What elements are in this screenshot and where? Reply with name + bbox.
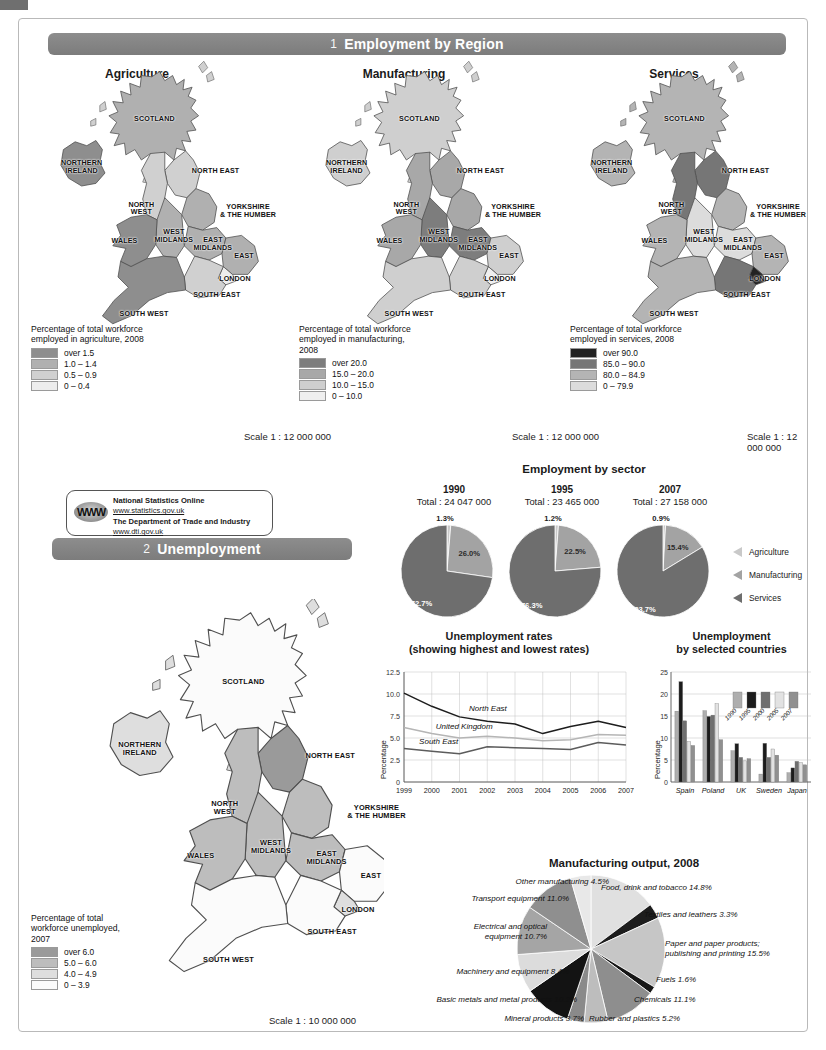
map-region-label-scotland: SCOTLAND (644, 116, 724, 124)
mfg-label-machinery: Machinery and equipment 8.4% (409, 967, 569, 977)
legend-label: 0.5 – 0.9 (64, 370, 97, 380)
chart-title-manufacturing-output: Manufacturing output, 2008 (449, 857, 799, 869)
sector-legend-item: Services (733, 593, 802, 603)
svg-text:Spain: Spain (676, 786, 694, 795)
svg-text:0.9%: 0.9% (652, 514, 670, 523)
map-region-label-scotland: SCOTLAND (379, 116, 459, 124)
map-region-label-scotland: SCOTLAND (114, 116, 194, 124)
legend-swatch (31, 359, 58, 369)
svg-text:2002: 2002 (479, 786, 495, 795)
map-region-label-yorkshire: YORKSHIRE & THE HUMBER (473, 204, 553, 219)
map-region-label-northeast: NORTH EAST (176, 168, 256, 176)
map-region-label-southwest: SOUTH WEST (634, 311, 714, 319)
svg-text:Japan: Japan (786, 786, 807, 795)
sector-legend-label: Services (749, 593, 781, 603)
line-chart-subtitle: (showing highest and lowest rates) (374, 643, 624, 656)
svg-text:UK: UK (736, 786, 747, 795)
map-region-label-east: EAST (331, 872, 411, 880)
section-1-banner: 1 Employment by Region (48, 33, 786, 55)
section-2-title: Unemployment (157, 541, 261, 557)
svg-text:2004: 2004 (535, 786, 551, 795)
map-region-label-northeast: NORTH EAST (441, 168, 521, 176)
svg-text:20: 20 (660, 691, 668, 698)
legend-swatch (31, 370, 58, 380)
map-region-label-london: LONDON (318, 906, 398, 914)
legend-label: 85.0 – 90.0 (603, 359, 645, 369)
map-region-label-east: EAST (204, 253, 284, 261)
section-2-banner: 2 Unemployment (52, 538, 352, 560)
svg-text:2005: 2005 (764, 706, 780, 722)
legend-swatch (31, 381, 58, 391)
mfg-label-chemicals: Chemicals 11.1% (634, 995, 754, 1005)
legend-row: 1.0 – 1.4 (31, 359, 151, 369)
chart-title-unemployment-rates: Unemployment rates (showing highest and … (374, 630, 624, 657)
svg-text:Poland: Poland (702, 786, 725, 795)
map-region-label-northwest: NORTH WEST (631, 202, 711, 217)
map-region-label-wales: WALES (350, 238, 430, 246)
sector-legend: Agriculture Manufacturing Services (733, 547, 802, 616)
legend-swatch (570, 359, 597, 369)
pie-total: Total : 27 158 000 (615, 496, 725, 508)
pie-year: 2007 (615, 483, 725, 496)
scale-services: Scale 1 : 12 000 000 (747, 431, 807, 453)
map-region-label-wales: WALES (161, 852, 241, 860)
map-region-label-wales: WALES (85, 238, 165, 246)
map-region-label-southwest: SOUTH WEST (189, 956, 269, 964)
scale-manufacturing: Scale 1 : 12 000 000 (512, 431, 599, 442)
legend-swatch (299, 391, 326, 401)
svg-text:1990: 1990 (723, 706, 738, 721)
svg-text:15.4%: 15.4% (667, 543, 689, 552)
sector-legend-label: Manufacturing (749, 570, 802, 580)
mfg-label-electrical: Electrical and optical equipment 10.7% (417, 922, 547, 943)
legend-swatch (570, 348, 597, 358)
legend-swatch (299, 380, 326, 390)
svg-text:1999: 1999 (396, 786, 412, 795)
mfg-label-textiles: Textiles and leathers 3.3% (644, 910, 814, 920)
svg-text:2006: 2006 (590, 786, 606, 795)
legend-row: over 1.5 (31, 348, 151, 358)
legend-caption: Percentage of total workforce employed i… (31, 324, 151, 345)
pie-header-1995: 1995 Total : 23 465 000 (507, 483, 617, 508)
legend-manufacturing: Percentage of total workforce employed i… (299, 324, 419, 402)
svg-text:2005: 2005 (563, 786, 579, 795)
legend-row: 10.0 – 15.0 (299, 380, 419, 390)
source-link-statistics[interactable]: www.statistics.gov.uk (113, 506, 250, 516)
source-line-3: The Department of Trade and Industry (113, 517, 250, 527)
svg-text:South East: South East (419, 737, 459, 746)
section-2-number: 2 (143, 542, 150, 556)
line-chart-title: Unemployment rates (374, 630, 624, 643)
source-link-dti[interactable]: www.dti.gov.uk (113, 527, 250, 537)
legend-services: Percentage of total workforce employed i… (570, 324, 690, 392)
source-info-box: WWW National Statistics Online www.stati… (66, 490, 273, 536)
triangle-marker-icon (733, 570, 742, 580)
atlas-page: 1 Employment by Region Agriculture Manuf… (18, 18, 808, 1032)
triangle-marker-icon (733, 547, 742, 557)
chart-title-employment-by-sector: Employment by sector (419, 463, 749, 475)
mfg-label-fuels: Fuels 1.6% (656, 975, 766, 985)
map-region-label-westmid: WEST MIDLANDS (231, 839, 311, 855)
bar-chart-ylabel: Percentage (653, 740, 662, 779)
page-corner-mark (0, 0, 28, 10)
svg-text:2.5: 2.5 (390, 756, 400, 765)
legend-swatch (570, 370, 597, 380)
scale-agriculture: Scale 1 : 12 000 000 (244, 431, 331, 442)
svg-text:25: 25 (660, 669, 668, 676)
sector-legend-item: Agriculture (733, 547, 802, 557)
sector-legend-item: Manufacturing (733, 570, 802, 580)
pie-total: Total : 23 465 000 (507, 496, 617, 508)
map-region-label-london: LONDON (460, 276, 540, 284)
legend-label: over 90.0 (603, 348, 638, 358)
map-region-label-east: EAST (469, 253, 549, 261)
map-region-label-southeast: SOUTH EAST (177, 292, 257, 300)
bar-chart-title: Unemployment (649, 630, 814, 643)
pie-total: Total : 24 047 000 (399, 496, 509, 508)
legend-label: 1.0 – 1.4 (64, 359, 97, 369)
map-region-label-nireland: NORTHERN IRELAND (572, 160, 652, 175)
legend-label: 15.0 – 20.0 (332, 369, 374, 379)
mfg-label-paper: Paper and paper products; publishing and… (665, 939, 815, 960)
svg-text:2001: 2001 (452, 786, 468, 795)
legend-row: over 90.0 (570, 348, 690, 358)
svg-text:North East: North East (469, 704, 508, 713)
legend-label: 80.0 – 84.9 (603, 370, 645, 380)
line-chart-ylabel: Percentage (379, 740, 388, 779)
